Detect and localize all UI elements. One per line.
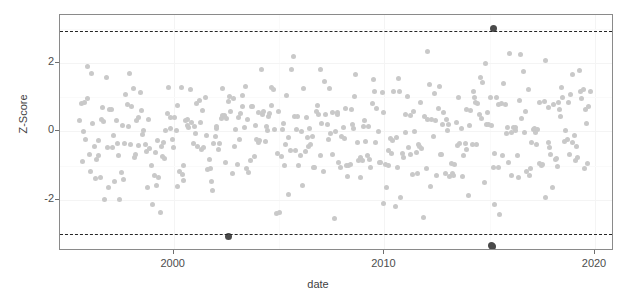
data-point — [98, 175, 103, 180]
data-point — [500, 153, 505, 158]
data-point — [85, 64, 90, 69]
data-point — [240, 104, 245, 109]
data-point — [179, 85, 184, 90]
data-point — [548, 152, 553, 157]
data-point — [485, 110, 490, 115]
data-point — [434, 173, 439, 178]
data-point — [381, 201, 386, 206]
data-point — [252, 154, 257, 159]
data-point — [112, 179, 117, 184]
data-point — [280, 127, 285, 132]
data-point — [467, 123, 472, 128]
data-point — [259, 67, 264, 72]
data-point — [80, 159, 85, 164]
data-point — [489, 123, 494, 128]
data-point — [415, 171, 420, 176]
gridline-horizontal-minor — [60, 29, 612, 30]
data-point — [181, 178, 186, 183]
data-point — [307, 126, 312, 131]
gridline-horizontal-minor — [60, 97, 612, 98]
data-point — [588, 89, 593, 94]
data-point — [405, 94, 410, 99]
data-point — [318, 67, 323, 72]
data-point — [362, 118, 367, 123]
data-point — [128, 142, 133, 147]
data-point — [192, 124, 197, 129]
data-point — [223, 160, 228, 165]
data-point — [111, 133, 116, 138]
data-point — [321, 169, 326, 174]
data-point — [138, 90, 143, 95]
data-point — [336, 160, 341, 165]
data-point — [150, 202, 155, 207]
data-point — [129, 104, 134, 109]
x-tick-mark — [594, 250, 595, 254]
data-point — [322, 79, 327, 84]
data-point — [479, 116, 484, 121]
data-point — [446, 122, 451, 127]
data-point — [370, 101, 375, 106]
data-point — [581, 87, 586, 92]
data-point — [559, 85, 564, 90]
data-point — [277, 210, 282, 215]
data-point — [149, 163, 154, 168]
data-point — [540, 162, 545, 167]
data-point — [433, 118, 438, 123]
x-axis-title: date — [0, 278, 636, 290]
data-point — [323, 112, 328, 117]
data-point — [582, 166, 587, 171]
data-point — [224, 116, 229, 121]
data-point — [214, 124, 219, 129]
data-point — [419, 146, 424, 151]
data-point — [586, 104, 591, 109]
data-point — [319, 121, 324, 126]
data-point — [393, 204, 398, 209]
data-point — [286, 192, 291, 197]
data-point — [197, 98, 202, 103]
data-point — [348, 162, 353, 167]
data-point — [507, 51, 512, 56]
data-point — [161, 140, 166, 145]
data-point — [193, 131, 198, 136]
data-point — [201, 145, 206, 150]
data-point — [318, 153, 323, 158]
data-point — [207, 157, 212, 162]
data-point — [298, 153, 303, 158]
data-point — [237, 137, 242, 142]
data-point — [445, 128, 450, 133]
data-point — [238, 111, 243, 116]
data-point — [397, 89, 402, 94]
data-point — [464, 147, 469, 152]
data-point — [153, 150, 158, 155]
data-point — [162, 156, 167, 161]
data-point — [496, 165, 501, 170]
data-point — [171, 145, 176, 150]
data-point — [352, 94, 357, 99]
data-point — [181, 163, 186, 168]
data-point — [283, 142, 288, 147]
data-point — [566, 100, 571, 105]
data-point — [248, 158, 253, 163]
data-point — [156, 175, 161, 180]
data-point — [226, 99, 231, 104]
data-point — [120, 123, 125, 128]
data-point — [94, 157, 99, 162]
data-point — [89, 71, 94, 76]
data-point — [579, 96, 584, 101]
data-point — [478, 75, 483, 80]
data-point — [240, 93, 245, 98]
data-point — [515, 153, 520, 158]
scatter-plot-figure: 20-2 200020102020 Z-Score date — [0, 0, 636, 303]
data-point — [136, 115, 141, 120]
data-point — [235, 162, 240, 167]
data-point — [427, 82, 432, 87]
data-point — [216, 147, 221, 152]
data-point — [92, 144, 97, 149]
data-point — [282, 163, 287, 168]
threshold-line — [60, 31, 612, 32]
data-point — [304, 115, 309, 120]
data-point — [308, 142, 313, 147]
data-point — [376, 129, 381, 134]
data-point — [535, 127, 540, 132]
data-point — [386, 163, 391, 168]
